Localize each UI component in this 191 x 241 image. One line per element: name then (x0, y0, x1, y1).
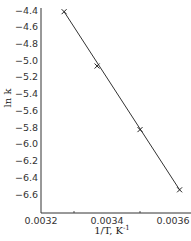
y-tick-label: −4.4 (15, 5, 38, 16)
y-tick-label: −6.2 (15, 155, 38, 166)
y-tick-label: −4.6 (15, 21, 38, 32)
fit-line (64, 12, 180, 190)
y-tick-label: −6.0 (15, 138, 38, 149)
x-tick-label: 0.0036 (156, 215, 189, 226)
y-axis-label: ln k (2, 88, 13, 108)
x-axis-label: 1/T, K-1 (94, 224, 130, 236)
x-marker-icon (62, 9, 67, 14)
y-tick-label: −5.8 (15, 122, 38, 133)
y-tick-label: −4.8 (15, 38, 38, 49)
y-tick-label: −6.4 (15, 172, 38, 183)
y-tick-label: −5.6 (15, 105, 38, 116)
y-tick-label: −6.6 (15, 189, 38, 200)
y-tick-label: −5.2 (15, 71, 38, 82)
x-tick-label: 0.0032 (24, 215, 57, 226)
x-marker-icon (177, 187, 182, 192)
y-axis-ticks: −4.4−4.6−4.8−5.0−5.2−5.4−5.6−5.8−6.0−6.2… (15, 5, 38, 200)
arrhenius-chart: −4.4−4.6−4.8−5.0−5.2−5.4−5.6−5.8−6.0−6.2… (0, 0, 191, 241)
y-tick-label: −5.4 (15, 88, 38, 99)
y-tick-label: −5.0 (15, 55, 38, 66)
